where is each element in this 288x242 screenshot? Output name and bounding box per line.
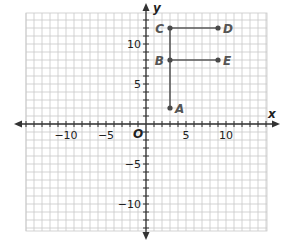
point-label-D: D [223, 22, 233, 36]
point-label-E: E [223, 54, 232, 68]
y-tick-label: −5 [125, 158, 141, 171]
y-tick-label: 5 [134, 78, 141, 91]
point-B [167, 57, 172, 62]
point-C [167, 25, 172, 30]
x-axis-label: x [267, 107, 277, 121]
x-axis-arrow-left-icon [14, 121, 22, 128]
y-axis-label: y [153, 1, 162, 15]
point-label-A: A [174, 102, 184, 116]
y-tick-label: −10 [118, 198, 141, 211]
origin-label: O [133, 127, 143, 141]
x-axis-arrow-right-icon [272, 121, 280, 128]
point-D [215, 25, 220, 30]
point-label-C: C [155, 22, 164, 36]
coordinate-plane: −10−5510105−5−10 ABCDE x y O [0, 0, 288, 242]
point-A [167, 105, 172, 110]
point-label-B: B [155, 54, 164, 68]
x-tick-label: −5 [98, 129, 114, 142]
y-tick-label: 10 [127, 38, 141, 51]
point-E [215, 57, 220, 62]
x-tick-label: −10 [54, 129, 77, 142]
y-axis-arrow-down-icon [143, 232, 150, 240]
x-tick-label: 10 [219, 129, 233, 142]
x-tick-label: 5 [183, 129, 190, 142]
y-axis-arrow-up-icon [143, 3, 150, 11]
